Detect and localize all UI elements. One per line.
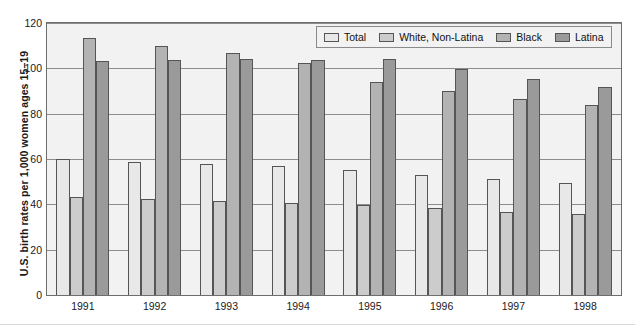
bar <box>311 60 324 296</box>
bar-group <box>478 23 550 295</box>
bar <box>285 203 298 295</box>
bar <box>155 46 168 295</box>
bar <box>415 175 428 295</box>
bar-chart: U.S. birth rates per 1,000 women ages 15… <box>0 0 635 327</box>
bar-group <box>334 23 406 295</box>
bar <box>598 87 611 295</box>
y-tick-label-20: 20 <box>2 244 42 255</box>
bar <box>559 183 572 295</box>
bar <box>56 159 69 295</box>
legend-swatch-icon <box>555 33 570 42</box>
bar <box>572 214 585 295</box>
bar <box>513 99 526 295</box>
x-tick-label-1994: 1994 <box>286 300 309 312</box>
x-tick-label-1995: 1995 <box>358 300 381 312</box>
bar <box>141 199 154 295</box>
legend-label: Black <box>516 31 542 43</box>
bar-group <box>549 23 621 295</box>
bar <box>168 60 181 295</box>
bar <box>343 170 356 295</box>
bar <box>370 82 383 295</box>
legend-label: Latina <box>575 31 604 43</box>
legend-swatch-icon <box>324 33 339 42</box>
bar <box>240 59 253 295</box>
bar <box>585 105 598 295</box>
y-tick-label-120: 120 <box>2 18 42 29</box>
bar-group <box>47 23 119 295</box>
bar <box>357 205 370 295</box>
bar-series-layer <box>47 23 621 295</box>
x-tick-label-1998: 1998 <box>573 300 596 312</box>
bar-group <box>262 23 334 295</box>
bar <box>298 63 311 295</box>
bar <box>442 91 455 295</box>
bar <box>128 162 141 295</box>
x-tick-label-1992: 1992 <box>143 300 166 312</box>
bar <box>83 38 96 295</box>
legend-entry: Latina <box>555 31 604 43</box>
y-tick-label-60: 60 <box>2 154 42 165</box>
bar <box>96 61 109 295</box>
y-tick-label-0: 0 <box>2 290 42 301</box>
legend-entry: Total <box>324 31 366 43</box>
bar <box>428 208 441 295</box>
legend-swatch-icon <box>496 33 511 42</box>
bar <box>226 53 239 295</box>
bottom-divider <box>0 324 635 325</box>
x-tick-label-1996: 1996 <box>430 300 453 312</box>
bar <box>527 79 540 295</box>
legend-entry: Black <box>496 31 542 43</box>
x-tick-label-1991: 1991 <box>71 300 94 312</box>
bar-group <box>119 23 191 295</box>
bar-group <box>191 23 263 295</box>
chart-legend: TotalWhite, Non-LatinaBlackLatina <box>316 26 612 48</box>
bar <box>200 164 213 295</box>
legend-entry: White, Non-Latina <box>379 31 483 43</box>
y-tick-label-40: 40 <box>2 199 42 210</box>
x-axis-ticks: 19911992199319941995199619971998 <box>47 300 621 320</box>
legend-label: Total <box>344 31 366 43</box>
y-tick-label-80: 80 <box>2 108 42 119</box>
x-tick-label-1997: 1997 <box>502 300 525 312</box>
y-axis-ticks: 020406080100120 <box>0 22 42 296</box>
bar <box>500 212 513 295</box>
bar <box>213 201 226 295</box>
bar <box>455 69 468 295</box>
bar <box>487 179 500 295</box>
bar-group <box>406 23 478 295</box>
y-tick-label-100: 100 <box>2 63 42 74</box>
x-tick-label-1993: 1993 <box>215 300 238 312</box>
bar <box>272 166 285 295</box>
legend-swatch-icon <box>379 33 394 42</box>
bar <box>383 59 396 295</box>
bar <box>70 197 83 295</box>
legend-label: White, Non-Latina <box>399 31 483 43</box>
